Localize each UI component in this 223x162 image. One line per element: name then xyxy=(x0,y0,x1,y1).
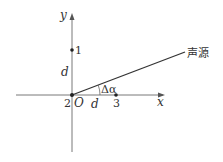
diagram-canvas: y x O 1 2 3 d d Δα 声源 xyxy=(0,0,223,162)
sound-source-label: 声源 xyxy=(187,46,209,60)
angle-arc xyxy=(98,85,100,95)
point-1-marker xyxy=(70,48,74,52)
point-2-label: 2 xyxy=(64,97,71,110)
point-1-label: 1 xyxy=(75,44,82,57)
source-direction-line xyxy=(72,52,185,95)
origin-label: O xyxy=(74,96,84,110)
y-axis-label: y xyxy=(59,8,67,22)
horizontal-distance-label: d xyxy=(91,97,99,111)
point-3-label: 3 xyxy=(113,97,120,110)
vertical-distance-label: d xyxy=(61,65,69,79)
angle-label: Δα xyxy=(101,83,117,96)
x-axis-label: x xyxy=(157,95,164,109)
y-axis xyxy=(70,13,75,152)
